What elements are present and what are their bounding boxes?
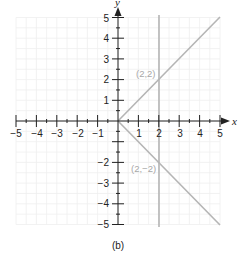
y-tick-label: −4 [98, 198, 110, 209]
y-axis-label: y [114, 0, 120, 8]
point-label-2-2: (2,2) [136, 68, 156, 79]
x-tick-label: −5 [10, 128, 22, 139]
x-axis-arrow-icon [221, 118, 230, 125]
x-axis-label: x [231, 115, 237, 127]
y-tick-label: −5 [98, 219, 110, 230]
x-tick-label: −1 [92, 128, 104, 139]
x-tick-label: 2 [156, 128, 162, 139]
y-axis-arrow-icon [115, 7, 122, 16]
y-tick-label: 2 [103, 74, 109, 85]
x-tick-label: −2 [72, 128, 84, 139]
y-tick-label: 4 [103, 33, 109, 44]
x-tick-labels: −5 −4 −3 −2 −1 1 2 3 4 5 [10, 128, 223, 139]
x-tick-label: 5 [217, 128, 223, 139]
x-tick-label: −4 [31, 128, 43, 139]
y-tick-label: 3 [103, 54, 109, 65]
y-tick-label: 1 [103, 95, 109, 106]
x-tick-label: 4 [197, 128, 203, 139]
point-label-2-neg2: (2,−2) [131, 163, 156, 174]
y-tick-label: −3 [98, 178, 110, 189]
y-tick-label: 5 [103, 13, 109, 24]
y-tick-label: −2 [98, 157, 110, 168]
x-tick-label: 3 [177, 128, 183, 139]
x-tick-label: −3 [51, 128, 63, 139]
x-tick-label: 1 [136, 128, 142, 139]
chart-figure: −5 −4 −3 −2 −1 1 2 3 4 5 1 2 3 4 5 −2 −3… [0, 0, 239, 256]
figure-caption: (b) [112, 240, 124, 251]
